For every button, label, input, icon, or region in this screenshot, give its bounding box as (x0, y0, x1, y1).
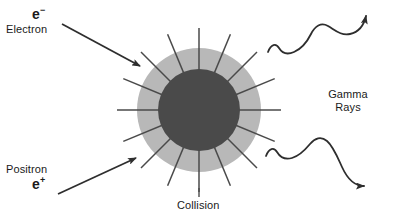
burst-core (158, 69, 240, 151)
gamma-rays-label-group: Gamma Rays (315, 88, 381, 114)
electron-name: Electron (6, 23, 47, 36)
electron-arrow (62, 24, 140, 66)
positron-symbol: e+ (32, 176, 47, 193)
burst-core-group (158, 69, 240, 151)
positron-arrow (58, 158, 136, 194)
gamma-rays-line-1: Gamma (315, 88, 381, 101)
gamma-rays-line-2: Rays (315, 101, 381, 114)
incoming-particle-arrows (58, 24, 140, 194)
gamma-wave-lower (266, 138, 364, 186)
collision-label: Collision (177, 199, 219, 212)
gamma-wave-upper (268, 16, 366, 53)
electron-symbol: e− (32, 6, 47, 23)
electron-label-group: e− Electron (6, 6, 47, 35)
positron-name: Positron (6, 163, 47, 176)
electron-symbol-letter: e (32, 6, 40, 22)
positron-label-group: Positron e+ (6, 163, 47, 192)
electron-charge-sign: − (40, 5, 45, 15)
positron-charge-sign: + (40, 175, 45, 185)
positron-symbol-letter: e (32, 176, 40, 192)
annihilation-diagram: e− Electron Positron e+ Gamma Rays Colli… (0, 0, 396, 220)
